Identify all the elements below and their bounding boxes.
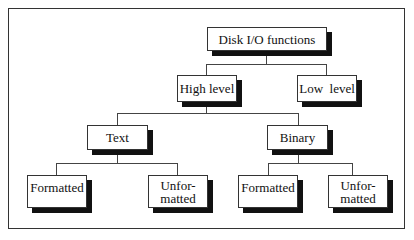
connector-level2-bar xyxy=(117,113,299,114)
node-text-unformatted: Unfor- matted xyxy=(148,175,208,208)
connector-to-high xyxy=(206,64,207,75)
connector-to-low xyxy=(326,64,327,75)
node-label: Disk I/O functions xyxy=(219,33,316,46)
node-label: Formatted xyxy=(241,181,294,194)
connector-to-text xyxy=(117,113,118,125)
node-low-level: Low level xyxy=(297,75,357,102)
connector-to-text-unformatted xyxy=(177,163,178,175)
node-text: Text xyxy=(87,125,148,150)
connector-to-binary-unformatted xyxy=(352,163,353,175)
connector-level1-bar xyxy=(206,64,327,65)
node-label-line1: Unfor- xyxy=(160,179,195,192)
node-text-formatted: Formatted xyxy=(27,175,87,208)
connector-root-down xyxy=(266,51,267,65)
node-disk-io-functions: Disk I/O functions xyxy=(207,27,327,51)
connector-high-down xyxy=(206,102,207,113)
connector-text-down xyxy=(117,150,118,163)
connector-to-text-formatted xyxy=(56,163,57,175)
node-binary-formatted: Formatted xyxy=(238,175,298,208)
node-label: Low level xyxy=(299,82,355,95)
node-binary-unformatted: Unfor- matted xyxy=(328,175,388,208)
connector-to-binary xyxy=(298,113,299,125)
node-label-line2: matted xyxy=(340,192,375,205)
connector-binary-bar xyxy=(268,163,353,164)
connector-binary-down xyxy=(298,150,299,163)
connector-text-bar xyxy=(56,163,178,164)
node-label-line2: matted xyxy=(160,192,195,205)
node-label: Binary xyxy=(280,131,315,144)
connector-to-binary-formatted xyxy=(268,163,269,175)
node-label: Formatted xyxy=(30,181,83,194)
node-label: High level xyxy=(180,82,235,95)
node-label-line1: Unfor- xyxy=(340,179,375,192)
node-high-level: High level xyxy=(177,75,237,102)
node-binary: Binary xyxy=(267,125,328,150)
node-label: Text xyxy=(106,131,129,144)
